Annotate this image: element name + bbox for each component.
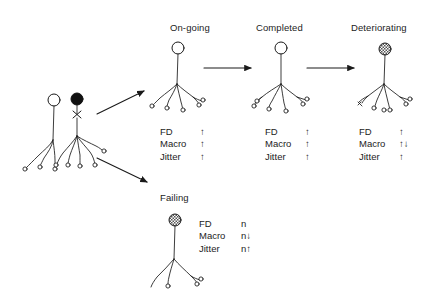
axon-branches [362, 84, 384, 103]
metric-row-fd: FD↑ [265, 126, 329, 138]
endplate-icon [166, 284, 170, 288]
axon-branches [177, 84, 199, 104]
metric-row-fd: FD↑ [160, 126, 224, 138]
metric-value-jitter: ↑ [305, 151, 329, 163]
metric-value-fd: ↑ [399, 126, 423, 138]
metric-label-jitter: Jitter [359, 151, 399, 163]
metric-value-fd: ↑ [305, 126, 329, 138]
endplate-icon [199, 277, 203, 281]
panel-title-deteriorating: Deteriorating [351, 22, 407, 33]
metric-label-fd: FD [359, 126, 399, 138]
metric-row-macro: Macro↑ [265, 138, 329, 150]
soma-open-icon [275, 42, 287, 54]
metric-value-macro: n↓ [241, 230, 267, 242]
metric-value-macro: ↑ [200, 138, 224, 150]
endplate-icon [372, 106, 376, 110]
endplate-icon [267, 107, 271, 111]
metric-label-macro: Macro [199, 230, 241, 242]
flow-arrow-branch-down [97, 158, 147, 182]
metric-row-jitter: Jittern↑ [199, 243, 267, 255]
endplate-icon [54, 163, 58, 167]
endplate-icon [23, 167, 27, 171]
panel-title-ongoing: On-going [170, 22, 210, 33]
metrics-ongoing: FD↑ Macro↑ Jitter↑ [160, 126, 224, 163]
panel-completed-neuron [252, 42, 309, 113]
endplate-icon [78, 164, 82, 168]
endplate-icon [102, 149, 106, 153]
source-motor-units [23, 93, 106, 171]
endplate-icon [181, 108, 185, 112]
metric-row-jitter: Jitter↑ [265, 151, 329, 163]
axon-branches [77, 136, 80, 165]
endplate-icon [301, 102, 305, 106]
endplate-icon [93, 163, 97, 167]
endplate-icon [197, 103, 201, 107]
metric-value-macro: ↑↓ [399, 138, 423, 150]
axon-stump-icon [358, 102, 362, 106]
flow-arrow-branch-up [97, 91, 144, 114]
panel-title-completed: Completed [256, 22, 303, 33]
metric-label-jitter: Jitter [160, 151, 200, 163]
soma-hatched-icon [169, 214, 181, 226]
axon-branches [26, 140, 53, 168]
axon-branches [153, 84, 177, 105]
axon-branches [384, 84, 390, 109]
metric-value-fd: n [241, 218, 267, 230]
metric-label-fd: FD [160, 126, 200, 138]
metric-value-jitter: ↑ [200, 151, 224, 163]
metrics-completed: FD↑ Macro↑ Jitter↑ [265, 126, 329, 163]
metrics-failing: FDn Macron↓ Jittern↑ [199, 218, 267, 255]
metric-row-macro: Macron↓ [199, 230, 267, 242]
endplate-icon [66, 163, 70, 167]
metric-label-macro: Macro [160, 138, 200, 150]
metric-row-jitter: Jitter↑ [160, 151, 224, 163]
metric-value-jitter: n↑ [241, 243, 267, 255]
panel-deteriorating-neuron [358, 43, 412, 112]
metric-label-macro: Macro [265, 138, 305, 150]
endplate-icon [382, 108, 386, 112]
axon-branches [167, 84, 177, 107]
metric-label-fd: FD [199, 218, 241, 230]
endplate-icon [388, 108, 392, 112]
axon-branches [57, 136, 77, 164]
metric-row-jitter: Jitter↑ [359, 151, 423, 163]
panel-ongoing-neuron [150, 42, 205, 112]
metric-label-jitter: Jitter [199, 243, 241, 255]
endplate-icon [201, 98, 205, 102]
endplate-icon [404, 102, 408, 106]
panel-failing-neuron [151, 214, 203, 288]
metric-row-fd: FD↑ [359, 126, 423, 138]
axon-trunk [384, 55, 385, 84]
metric-value-jitter: ↑ [399, 151, 423, 163]
metric-label-macro: Macro [359, 138, 399, 150]
axon-branches [151, 259, 174, 287]
source-neuron-denervated [54, 93, 106, 168]
endplate-icon [165, 106, 169, 110]
endplate-icon [150, 104, 154, 108]
metric-label-fd: FD [265, 126, 305, 138]
metric-row-macro: Macro↑ [160, 138, 224, 150]
axon-trunk [177, 54, 178, 84]
metric-row-fd: FDn [199, 218, 267, 230]
axon-trunk [174, 226, 175, 259]
axon-branches [281, 84, 303, 103]
metric-row-macro: Macro↑↓ [359, 138, 423, 150]
endplate-icon [195, 282, 199, 286]
soma-hatched-icon [379, 43, 391, 55]
endplate-icon [255, 99, 259, 103]
axon-branches [68, 136, 77, 164]
axon-branches [174, 259, 197, 283]
soma-open-icon [172, 42, 184, 54]
axon-branches [177, 84, 183, 109]
endplate-icon [53, 167, 57, 171]
axon-trunk [53, 106, 54, 140]
metric-value-macro: ↑ [305, 138, 329, 150]
endplate-icon [38, 165, 42, 169]
metrics-deteriorating: FD↑ Macro↑↓ Jitter↑ [359, 126, 423, 163]
soma-filled-icon [71, 93, 83, 105]
soma-open-icon [48, 94, 60, 106]
axon-branches [77, 136, 103, 151]
panel-title-failing: Failing [160, 192, 189, 203]
endplate-icon [252, 104, 256, 108]
metric-label-jitter: Jitter [265, 151, 305, 163]
